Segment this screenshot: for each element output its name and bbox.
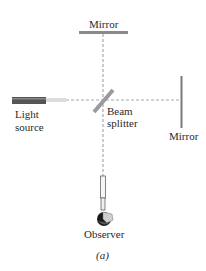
- beam-splitter-label-line2: splitter: [107, 117, 138, 129]
- top-mirror: [79, 31, 128, 34]
- top-mirror-label: Mirror: [89, 18, 118, 30]
- figure-caption: (a): [96, 249, 109, 261]
- right-mirror-label: Mirror: [169, 130, 198, 142]
- observer-icon: [97, 212, 113, 226]
- source-glow: [46, 98, 66, 102]
- light-source-label-line2: source: [15, 121, 44, 133]
- beam-splitter-label-line1: Beam: [107, 105, 133, 117]
- light-source-label-line1: Light: [15, 108, 39, 120]
- right-mirror: [181, 76, 183, 128]
- telescope: [101, 176, 106, 198]
- observer-label: Observer: [84, 228, 124, 240]
